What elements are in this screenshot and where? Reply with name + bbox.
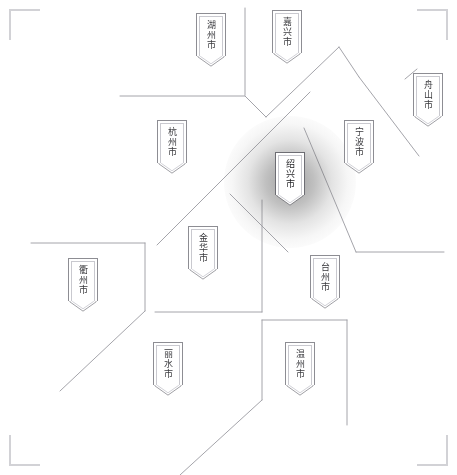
city-marker-tail: [344, 163, 374, 174]
city-marker-frame: 丽水市: [156, 345, 180, 385]
city-label-taizhou: 台州市: [320, 262, 331, 292]
corner-brackets-layer: [0, 0, 457, 475]
city-marker-lishui[interactable]: 丽水市: [153, 342, 183, 385]
city-marker-frame: 绍兴市: [278, 155, 302, 195]
city-marker-jiaxing[interactable]: 嘉兴市: [272, 10, 302, 53]
city-marker-tail: [272, 53, 302, 64]
city-marker-shaoxing[interactable]: 绍兴市: [275, 152, 305, 195]
city-marker-frame: 台州市: [313, 258, 337, 298]
corner-bracket-bottom-left: [10, 435, 40, 465]
city-marker-tail: [188, 269, 218, 280]
city-marker-tail: [310, 298, 340, 309]
city-marker-tail: [68, 301, 98, 312]
city-marker-frame: 湖州市: [199, 16, 223, 56]
zhejiang-city-map: 湖州市嘉兴市舟山市杭州市宁波市绍兴市金华市台州市衢州市丽水市温州市: [0, 0, 457, 475]
city-marker-wenzhou[interactable]: 温州市: [285, 342, 315, 385]
city-marker-tail: [285, 385, 315, 396]
city-marker-hangzhou[interactable]: 杭州市: [157, 120, 187, 163]
city-marker-frame: 嘉兴市: [275, 13, 299, 53]
city-label-lishui: 丽水市: [163, 349, 174, 379]
city-label-huzhou: 湖州市: [206, 20, 217, 50]
city-label-ningbo: 宁波市: [354, 127, 365, 157]
city-label-hangzhou: 杭州市: [167, 127, 178, 157]
city-label-wenzhou: 温州市: [295, 349, 306, 379]
city-marker-tail: [196, 56, 226, 67]
corner-bracket-top-left: [10, 10, 40, 40]
city-marker-tail: [413, 116, 443, 127]
city-marker-frame: 金华市: [191, 229, 215, 269]
city-marker-frame: 杭州市: [160, 123, 184, 163]
city-marker-frame: 温州市: [288, 345, 312, 385]
city-marker-taizhou[interactable]: 台州市: [310, 255, 340, 298]
city-marker-tail: [275, 195, 305, 206]
city-marker-huzhou[interactable]: 湖州市: [196, 13, 226, 56]
city-marker-tail: [157, 163, 187, 174]
city-label-shaoxing: 绍兴市: [285, 159, 296, 189]
corner-bracket-bottom-right: [417, 435, 447, 465]
city-marker-frame: 衢州市: [71, 261, 95, 301]
city-label-quzhou: 衢州市: [78, 265, 89, 295]
city-label-jiaxing: 嘉兴市: [282, 17, 293, 47]
city-marker-frame: 宁波市: [347, 123, 371, 163]
city-marker-jinhua[interactable]: 金华市: [188, 226, 218, 269]
city-label-jinhua: 金华市: [198, 233, 209, 263]
city-marker-frame: 舟山市: [416, 76, 440, 116]
city-marker-quzhou[interactable]: 衢州市: [68, 258, 98, 301]
city-label-zhoushan: 舟山市: [423, 80, 434, 110]
corner-bracket-top-right: [417, 10, 447, 40]
city-marker-zhoushan[interactable]: 舟山市: [413, 73, 443, 116]
city-marker-ningbo[interactable]: 宁波市: [344, 120, 374, 163]
city-marker-tail: [153, 385, 183, 396]
